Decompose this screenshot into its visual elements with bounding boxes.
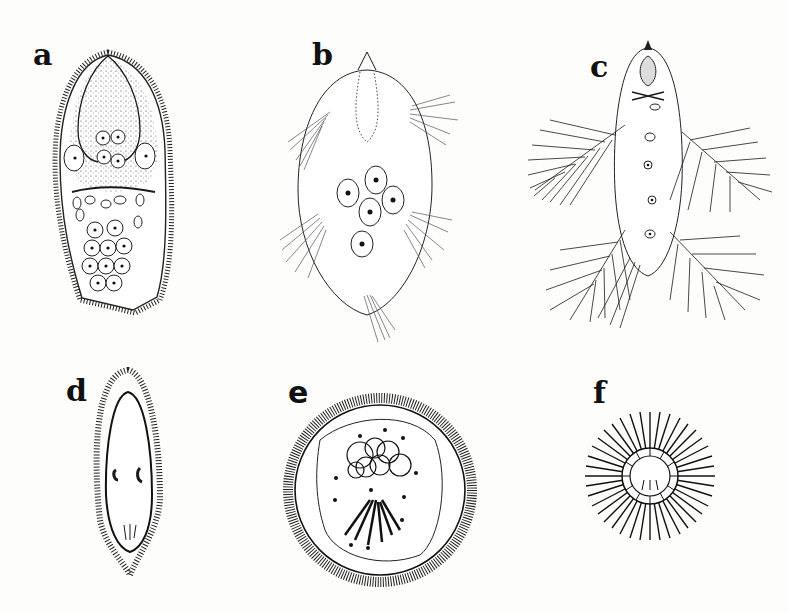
panel-d: d (0, 330, 260, 613)
cyst-e-drawing (260, 330, 540, 613)
panel-e: e (260, 330, 540, 613)
ciliate-b-drawing (260, 0, 520, 350)
ciliate-a-drawing (0, 0, 260, 320)
ciliate-c-drawing (520, 0, 788, 340)
sphere-f-drawing (540, 340, 788, 613)
ciliate-d-drawing (0, 330, 260, 613)
panel-b: b (260, 0, 520, 350)
panel-c: c (520, 0, 788, 340)
panel-a: a (0, 0, 260, 320)
panel-f: f (540, 340, 788, 613)
